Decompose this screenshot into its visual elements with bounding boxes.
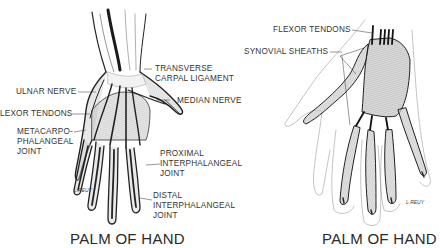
label-flexor-tendons-right: FLEXOR TENDONS xyxy=(273,25,351,35)
label-metacarpophalangeal-line3: JOINT xyxy=(17,147,42,157)
caption-right: PALM OF HAND xyxy=(322,230,437,247)
label-distal-interphalangeal-line2: INTERPHALANGEAL xyxy=(153,201,235,211)
label-distal-interphalangeal-line1: DISTAL xyxy=(153,191,182,201)
label-synovial-sheaths: SYNOVIAL SHEATHS xyxy=(244,47,328,57)
label-flexor-tendons: LEXOR TENDONS xyxy=(0,109,73,119)
label-distal-interphalangeal-line3: JOINT xyxy=(153,211,178,221)
label-proximal-interphalangeal-line1: PROXIMAL xyxy=(160,149,204,159)
label-transverse-carpal-ligament-line1: TRANSVERSE xyxy=(155,64,213,74)
label-proximal-interphalangeal-line2: INTERPHALANGEAL xyxy=(160,159,242,169)
label-transverse-carpal-ligament-line2: CARPAL LIGAMENT xyxy=(155,74,234,84)
artist-signature-left: L.REUY xyxy=(74,187,92,193)
label-metacarpophalangeal-line2: PHALANGEAL xyxy=(17,137,74,147)
label-median-nerve: MEDIAN NERVE xyxy=(177,96,242,106)
artist-signature-right: L.REUY xyxy=(406,199,424,205)
label-metacarpophalangeal-line1: METACARPO- xyxy=(17,127,73,137)
label-ulnar-nerve: ULNAR NERVE xyxy=(16,87,76,97)
caption-left: PALM OF HAND xyxy=(70,230,185,247)
label-proximal-interphalangeal-line3: JOINT xyxy=(160,169,185,179)
